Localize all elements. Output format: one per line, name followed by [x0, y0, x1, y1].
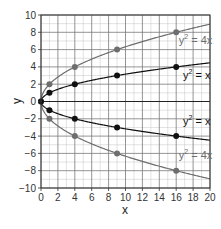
- data-point: [72, 133, 78, 139]
- x-tick-label: 12: [137, 192, 149, 203]
- y-tick-label: −2: [25, 113, 37, 124]
- data-point: [72, 64, 78, 70]
- curve-label: y2 = x: [183, 68, 211, 81]
- y-tick-label: −10: [19, 183, 36, 194]
- x-tick-label: 18: [188, 192, 200, 203]
- y-tick-label: 0: [30, 96, 36, 107]
- data-point: [46, 81, 52, 87]
- x-axis-label: x: [122, 203, 128, 217]
- x-tick-label: 6: [89, 192, 95, 203]
- y-tick-label: −6: [25, 148, 37, 159]
- data-point: [114, 73, 120, 79]
- x-tick-label: 10: [120, 192, 132, 203]
- y-tick-label: 2: [30, 79, 36, 90]
- data-point: [114, 47, 120, 53]
- x-tick-label: 0: [38, 192, 44, 203]
- data-point: [46, 116, 52, 122]
- y-tick-label: −8: [25, 165, 37, 176]
- x-tick-label: 2: [55, 192, 61, 203]
- data-point: [46, 107, 52, 113]
- data-point: [114, 150, 120, 156]
- data-point: [173, 64, 179, 70]
- curve-label: y2 = x: [183, 114, 211, 127]
- curve-label: y2 = 4x: [179, 148, 213, 161]
- y-tick-label: −4: [25, 131, 37, 142]
- x-tick-labels: 02468101214161820: [38, 188, 216, 203]
- y-tick-label: 8: [30, 27, 36, 38]
- data-point: [114, 124, 120, 130]
- data-point: [173, 133, 179, 139]
- parabola-chart: 02468101214161820 −10−8−6−4−20246810 y2 …: [0, 0, 221, 229]
- x-tick-label: 8: [106, 192, 112, 203]
- x-tick-label: 14: [154, 192, 166, 203]
- x-tick-label: 4: [72, 192, 78, 203]
- data-point: [173, 168, 179, 174]
- data-point: [46, 90, 52, 96]
- y-tick-label: 6: [30, 44, 36, 55]
- curve-label: y2 = 4x: [179, 33, 213, 46]
- y-tick-label: 4: [30, 61, 36, 72]
- curve-labels: y2 = 4xy2 = 4xy2 = xy2 = x: [179, 33, 213, 161]
- x-tick-label: 16: [171, 192, 183, 203]
- y-axis-label: y: [10, 98, 24, 104]
- x-tick-label: 20: [204, 192, 216, 203]
- y-tick-label: 10: [25, 10, 37, 21]
- data-point: [72, 81, 78, 87]
- data-point: [72, 116, 78, 122]
